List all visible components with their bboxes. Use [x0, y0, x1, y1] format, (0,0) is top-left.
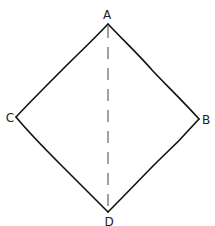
vertex-label-c: C [6, 111, 14, 125]
edge-c-a [16, 24, 108, 117]
edge-d-c [16, 117, 108, 212]
vertex-label-a: A [103, 8, 112, 22]
vertex-label-b: B [202, 113, 210, 127]
edge-b-d [108, 119, 199, 212]
vertex-label-d: D [104, 215, 113, 226]
edge-a-b [108, 24, 199, 119]
diagram-canvas: A B C D [0, 0, 215, 226]
